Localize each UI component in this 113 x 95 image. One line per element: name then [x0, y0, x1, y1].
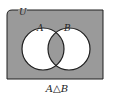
venn-diagram: U A B A△B: [0, 0, 113, 95]
set-b-label: B: [63, 23, 71, 33]
caption: A△B: [45, 83, 68, 94]
universe-label: U: [19, 7, 27, 17]
set-a-label: A: [36, 23, 44, 33]
